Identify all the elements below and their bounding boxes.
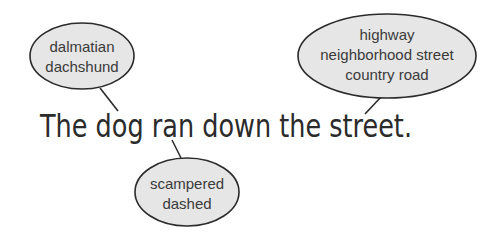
bubble-ellipse: [30, 23, 134, 89]
bubble-line: country road: [345, 66, 428, 83]
bubble-dog-synonyms: dalmatian dachshund: [30, 23, 134, 89]
bubble-line: dachshund: [45, 58, 118, 75]
bubble-line: neighborhood street: [320, 46, 454, 63]
bubble-line: scampered: [150, 175, 224, 192]
bubble-line: highway: [359, 26, 415, 43]
word-choice-diagram: dalmatian dachshund highway neighborhood…: [0, 0, 502, 237]
bubble-ran-synonyms: scampered dashed: [135, 158, 239, 226]
bubble-street-synonyms: highway neighborhood street country road: [298, 14, 476, 98]
bubble-ellipse: [135, 158, 239, 226]
bubble-line: dalmatian: [49, 38, 114, 55]
bubble-line: dashed: [162, 195, 211, 212]
main-sentence: The dog ran down the street.: [39, 107, 412, 145]
